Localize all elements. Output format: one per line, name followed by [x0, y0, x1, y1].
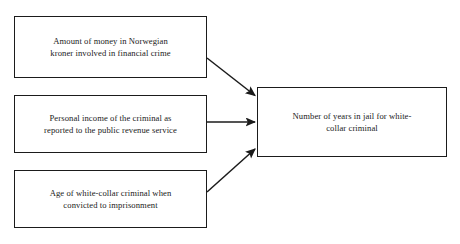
- node-label-amount-of-money: Amount of money in Norwegian kroner invo…: [50, 35, 170, 60]
- node-personal-income: Personal income of the criminal as repor…: [14, 95, 207, 153]
- node-amount-of-money: Amount of money in Norwegian kroner invo…: [14, 16, 207, 78]
- node-label-age-of-criminal: Age of white-collar criminal when convic…: [50, 187, 172, 212]
- node-label-years-in-jail: Number of years in jail for white- colla…: [293, 110, 412, 135]
- connector-age-to-jail: [207, 149, 255, 192]
- diagram-canvas: Amount of money in Norwegian kroner invo…: [0, 0, 460, 244]
- node-years-in-jail: Number of years in jail for white- colla…: [257, 87, 447, 157]
- node-label-personal-income: Personal income of the criminal as repor…: [44, 112, 177, 137]
- connector-money-to-jail: [207, 58, 255, 96]
- node-age-of-criminal: Age of white-collar criminal when convic…: [14, 170, 207, 228]
